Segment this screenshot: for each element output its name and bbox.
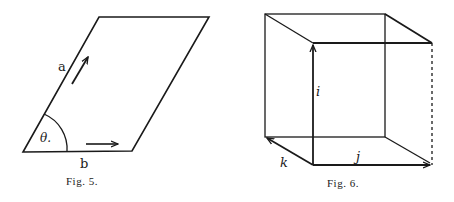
label-theta: θ. xyxy=(40,131,51,145)
label-k: k xyxy=(280,155,288,170)
figure-5: a b θ. Fig. 5. xyxy=(23,17,209,187)
caption-fig-5: Fig. 5. xyxy=(66,175,98,187)
vector-k-arrow xyxy=(267,138,313,165)
label-a: a xyxy=(58,59,66,74)
diagram-canvas: a b θ. Fig. 5. i j k Fig. 6. xyxy=(0,0,454,202)
label-j: j xyxy=(353,149,360,164)
figure-6 xyxy=(265,14,432,165)
label-b: b xyxy=(80,156,88,171)
cube-edge-top-left xyxy=(265,14,313,43)
cube-edge-bottom-right xyxy=(385,137,430,163)
label-i: i xyxy=(316,84,320,99)
cube-edge-top-right xyxy=(385,14,432,43)
cube-back-face xyxy=(265,14,385,137)
caption-fig-6: Fig. 6. xyxy=(327,177,359,189)
